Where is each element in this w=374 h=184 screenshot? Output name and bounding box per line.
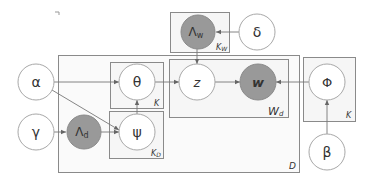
plate-label-K-theta: K <box>154 99 160 108</box>
svg-text:z: z <box>193 75 202 90</box>
svg-text:β: β <box>323 144 332 160</box>
node-lambda-w: Λw <box>181 15 215 49</box>
svg-text:θ: θ <box>133 74 142 90</box>
plate-label-D: D <box>289 161 296 171</box>
node-z: z <box>179 64 215 100</box>
node-delta: δ <box>239 14 275 50</box>
node-lambda-d: Λd <box>67 115 101 149</box>
node-gamma: γ <box>18 114 54 150</box>
plate-label-K-phi: K <box>346 111 352 120</box>
svg-text:ψ: ψ <box>132 124 141 140</box>
svg-text:w: w <box>252 75 265 90</box>
node-theta: θ <box>119 64 155 100</box>
node-beta: β <box>309 134 345 170</box>
node-w: w <box>240 64 276 100</box>
graphical-model-diagram: D K KD Wd K KW α γ Λd <box>0 0 374 184</box>
svg-text:Φ: Φ <box>322 75 332 90</box>
node-psi: ψ <box>119 114 155 150</box>
plate-label-K-W: KW <box>216 43 228 52</box>
svg-text:α: α <box>31 74 40 90</box>
stray-mark <box>55 12 59 15</box>
svg-text:δ: δ <box>253 24 262 40</box>
svg-text:γ: γ <box>32 124 40 140</box>
node-alpha: α <box>18 64 54 100</box>
node-phi: Φ <box>309 64 345 100</box>
plate-label-K-D: KD <box>151 149 161 158</box>
